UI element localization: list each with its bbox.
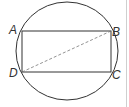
diagonal-db [22,31,111,72]
circle [16,2,118,100]
label-d: D [9,66,18,80]
rectangle-abcd [22,31,111,72]
label-b: B [112,25,120,39]
geometry-diagram: A B C D [0,0,129,107]
label-c: C [112,68,121,82]
label-a: A [8,23,17,37]
